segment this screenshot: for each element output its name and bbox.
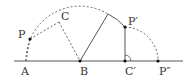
rotation-diagram: A B P C P′ C′ P″ bbox=[0, 0, 191, 78]
label-p-prime: P′ bbox=[128, 15, 138, 28]
point-p-prime bbox=[123, 25, 126, 28]
segment-c-b bbox=[59, 22, 80, 61]
arc-about-c-prime bbox=[125, 27, 158, 60]
segment-p-c bbox=[30, 22, 59, 39]
label-p-double-prime: P″ bbox=[159, 65, 171, 78]
segment-a-p bbox=[26, 39, 30, 61]
point-b bbox=[78, 59, 81, 62]
arc-solid-to-p-prime bbox=[108, 14, 125, 27]
label-p: P bbox=[18, 28, 26, 41]
point-p bbox=[28, 37, 31, 40]
point-c-prime bbox=[123, 59, 126, 62]
label-c-prime: C′ bbox=[125, 65, 136, 78]
point-p-double-prime bbox=[156, 59, 159, 62]
label-b: B bbox=[80, 65, 88, 78]
segment-b-top bbox=[80, 14, 108, 61]
label-c: C bbox=[61, 10, 69, 23]
label-a: A bbox=[20, 65, 30, 78]
